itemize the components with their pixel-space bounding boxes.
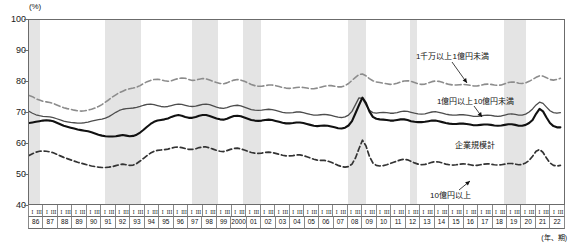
x-axis-quarter-cell-93: IIII	[129, 205, 143, 216]
x-axis-quarter-mark: III	[528, 205, 535, 216]
x-axis-year-14: 14	[434, 216, 448, 229]
x-axis-quarter-cell-05: IIII	[303, 205, 317, 216]
x-axis-quarter-mark: I	[391, 205, 398, 216]
x-axis-quarter-mark: III	[166, 205, 173, 216]
y-axis-tick-100: 100	[0, 14, 26, 24]
chart-root: (%) 100908070605040 1千万以上1億円未満 1億円以上10億円…	[0, 0, 569, 251]
x-axis-quarter-mark: I	[217, 205, 224, 216]
x-axis-year-92: 92	[115, 216, 129, 229]
x-axis-quarter-mark: III	[296, 205, 303, 216]
x-axis-quarter-cell-01: IIII	[245, 205, 259, 216]
x-axis-quarter-mark: I	[261, 205, 268, 216]
x-axis-quarter-cell-22: IIII	[549, 205, 564, 216]
x-axis-quarter-mark: I	[362, 205, 369, 216]
x-axis-quarter-cell-12: IIII	[405, 205, 419, 216]
x-axis-quarter-cell-20: IIII	[520, 205, 534, 216]
x-axis-quarter-mark: III	[195, 205, 202, 216]
x-axis-quarter-mark: III	[398, 205, 405, 216]
x-axis-quarter-mark: III	[485, 205, 492, 216]
x-axis-year-20: 20	[520, 216, 534, 229]
x-axis-year-98: 98	[201, 216, 215, 229]
x-axis-quarter-mark: III	[210, 205, 217, 216]
x-axis-year-94: 94	[144, 216, 158, 229]
x-axis-quarter-cell-92: IIII	[115, 205, 129, 216]
x-axis-quarter-mark: I	[348, 205, 355, 216]
y-axis-tick-60: 60	[0, 138, 26, 148]
x-axis-quarter-mark: I	[406, 205, 413, 216]
x-axis-quarter-mark: III	[383, 205, 390, 216]
x-axis-year-99: 99	[216, 216, 230, 229]
x-axis-quarter-mark: I	[449, 205, 456, 216]
x-axis-quarter-mark: III	[340, 205, 347, 216]
x-axis-year-01: 01	[246, 216, 260, 229]
x-axis-quarter-mark: III	[543, 205, 550, 216]
series-label-1oku: 1億円以上10億円未満	[437, 98, 514, 106]
x-axis-year-89: 89	[71, 216, 85, 229]
x-axis-year-2000: 2000	[230, 216, 245, 229]
x-axis-quarter-mark: III	[427, 205, 434, 216]
x-axis-quarter-mark: III	[325, 205, 332, 216]
x-axis-year-97: 97	[187, 216, 201, 229]
x-axis-quarter-cell-91: IIII	[100, 205, 114, 216]
x-axis-quarter-mark: I	[478, 205, 485, 216]
x-axis-quarter-mark: I	[536, 205, 543, 216]
x-axis-year-09: 09	[361, 216, 375, 229]
x-axis-quarter-cell-96: IIII	[173, 205, 187, 216]
x-axis-year-12: 12	[405, 216, 419, 229]
x-axis-year-86: 86	[28, 216, 42, 229]
x-axis-quarter-cell-90: IIII	[86, 205, 100, 216]
x-axis-quarter-mark: III	[108, 205, 115, 216]
x-axis-year-88: 88	[57, 216, 71, 229]
x-axis-quarter-row: IIIIIIIIIIIIIIIIIIIIIIIIIIIIIIIIIIIIIIII…	[28, 205, 565, 216]
x-axis-quarter-cell-16: IIII	[463, 205, 477, 216]
x-axis-quarter-mark: I	[435, 205, 442, 216]
x-axis-quarter-cell-98: IIII	[202, 205, 216, 216]
x-axis-note: (年、期)	[541, 232, 567, 242]
x-axis-quarter-cell-07: IIII	[332, 205, 346, 216]
y-axis-tick-labels: 100908070605040	[0, 0, 26, 251]
x-axis-quarter-mark: I	[319, 205, 326, 216]
x-axis-quarter-cell-04: IIII	[289, 205, 303, 216]
x-axis-quarter-mark: I	[43, 205, 50, 216]
x-axis-quarter-cell-02: IIII	[260, 205, 274, 216]
series-label-1sen-man: 1千万以上1億円未満	[416, 53, 489, 61]
x-axis-quarter-mark: III	[499, 205, 506, 216]
x-axis-quarter-cell-10: IIII	[376, 205, 390, 216]
x-axis-quarter-mark: III	[311, 205, 318, 216]
x-axis-quarter-mark: I	[521, 205, 528, 216]
x-axis-quarter-mark: III	[253, 205, 260, 216]
x-axis-quarter-mark: III	[181, 205, 188, 216]
x-axis-quarter-cell-11: IIII	[390, 205, 404, 216]
x-axis-quarter-cell-06: IIII	[318, 205, 332, 216]
x-axis-quarter-mark: I	[58, 205, 65, 216]
x-axis-year-03: 03	[275, 216, 289, 229]
x-axis-year-90: 90	[86, 216, 100, 229]
x-axis-quarter-mark: I	[464, 205, 471, 216]
x-axis-year-95: 95	[158, 216, 172, 229]
x-axis-quarter-mark: I	[290, 205, 297, 216]
x-axis-quarter-cell-2000: IIII	[231, 205, 245, 216]
x-axis-quarter-cell-97: IIII	[187, 205, 201, 216]
x-axis-quarter-mark: III	[123, 205, 130, 216]
x-axis-quarter-mark: I	[188, 205, 195, 216]
x-axis-year-11: 11	[390, 216, 404, 229]
x-axis-year-21: 21	[535, 216, 549, 229]
x-axis-quarter-cell-14: IIII	[434, 205, 448, 216]
x-axis-quarter-cell-15: IIII	[448, 205, 462, 216]
x-axis-quarter-mark: III	[239, 205, 246, 216]
x-axis-quarter-mark: I	[420, 205, 427, 216]
x-axis-quarter-mark: III	[137, 205, 144, 216]
x-axis-quarter-mark: III	[36, 205, 43, 216]
x-axis-quarter-mark: I	[145, 205, 152, 216]
x-axis-year-07: 07	[333, 216, 347, 229]
x-axis: IIIIIIIIIIIIIIIIIIIIIIIIIIIIIIIIIIIIIIII…	[28, 205, 565, 231]
x-axis-year-18: 18	[492, 216, 506, 229]
x-axis-quarter-cell-18: IIII	[492, 205, 506, 216]
x-axis-quarter-mark: III	[152, 205, 159, 216]
x-axis-quarter-mark: I	[377, 205, 384, 216]
x-axis-quarter-cell-19: IIII	[506, 205, 520, 216]
x-axis-quarter-mark: I	[159, 205, 166, 216]
x-axis-quarter-cell-09: IIII	[361, 205, 375, 216]
series-label-total: 企業規模計	[455, 142, 495, 150]
x-axis-quarter-mark: I	[203, 205, 210, 216]
